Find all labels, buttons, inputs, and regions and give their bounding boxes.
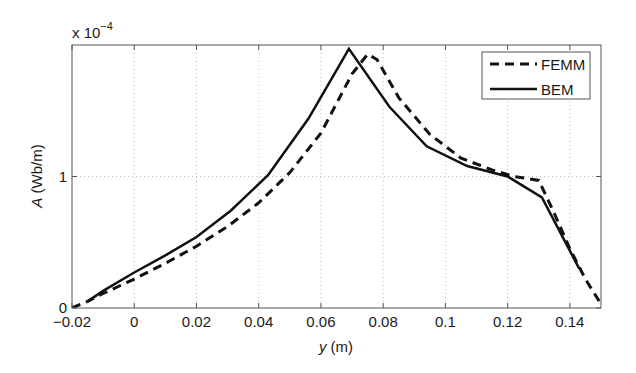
x-tick-label: 0.02 bbox=[182, 313, 211, 330]
x-tick-label: 0.06 bbox=[306, 313, 335, 330]
line-chart: −0.0200.020.040.060.080.10.120.14 01 x 1… bbox=[0, 0, 636, 373]
y-axis-label: A (Wb/m) bbox=[28, 144, 45, 208]
x-tick-label: 0.04 bbox=[244, 313, 273, 330]
x-tick-label: 0.08 bbox=[369, 313, 398, 330]
y-tick-label: 0 bbox=[59, 299, 67, 316]
legend: FEMM BEM bbox=[482, 52, 590, 99]
x-tick-label: 0.1 bbox=[435, 313, 456, 330]
x-tick-label: 0.14 bbox=[555, 313, 584, 330]
x-tick-label: 0 bbox=[130, 313, 138, 330]
legend-bem-label: BEM bbox=[541, 81, 574, 98]
y-tick-labels: 01 bbox=[59, 168, 67, 317]
y-axis-multiplier: x 10−4 bbox=[72, 20, 113, 41]
y-tick-label: 1 bbox=[59, 168, 67, 185]
legend-femm-label: FEMM bbox=[541, 56, 585, 73]
x-tick-labels: −0.0200.020.040.060.080.10.120.14 bbox=[53, 313, 584, 330]
x-axis-label: y (m) bbox=[318, 338, 353, 355]
x-tick-label: 0.12 bbox=[493, 313, 522, 330]
